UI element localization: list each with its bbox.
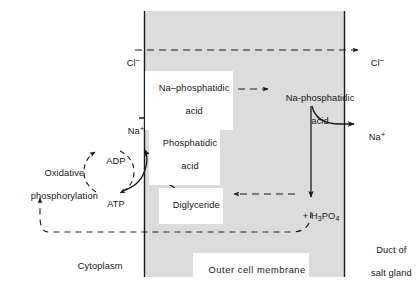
sodium-inner-label: Na+ — [117, 112, 145, 149]
salt-gland-diagram: Cl− Cl− Na–phosphatidic acid Na-phosphat… — [0, 0, 418, 290]
na-phosphatidic-acid-inner-label: Na–phosphatidic acid — [145, 71, 233, 130]
sodium-outer-label: Na+ — [358, 118, 386, 155]
diglyceride-label: Diglyceride — [159, 188, 223, 224]
atp-consumption-arrow — [122, 150, 147, 191]
chloride-inner-label: Cl− — [116, 44, 141, 81]
duct-of-salt-gland-label: Duct of salt gland — [358, 234, 414, 290]
chloride-outer-label: Cl− — [360, 44, 385, 81]
cytoplasm-label: Cytoplasm — [67, 250, 123, 284]
oxidative-phosphorylation-label: Oxidative phosphorylation — [14, 157, 104, 214]
phosphoric-acid-label: + H3PO4 — [292, 200, 339, 236]
na-phosphatidic-acid-outer-label: Na-phosphatidic acid — [275, 82, 354, 139]
outer-cell-membrane-label: Outer cell membrane — [193, 253, 309, 289]
phosphatidic-acid-label: Phosphatidic acid — [149, 126, 220, 185]
